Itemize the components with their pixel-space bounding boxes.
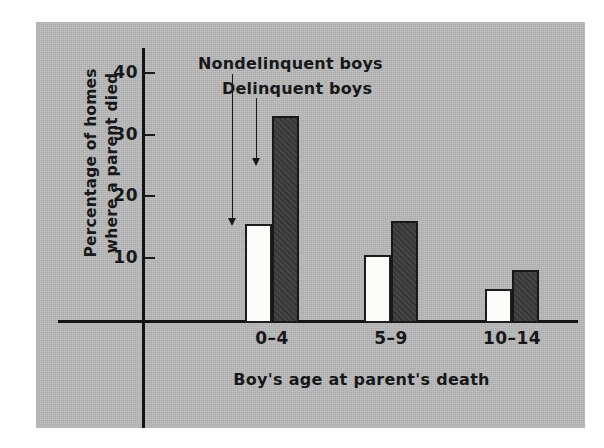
leader-line-delinquent xyxy=(256,98,257,162)
bar-nondelinquent-1 xyxy=(364,255,391,323)
category-label-1: 5–9 xyxy=(341,328,441,348)
arrowhead-nondelinquent-icon xyxy=(228,218,236,226)
bar-chart-figure: 10203040 Percentage of homes where a par… xyxy=(0,0,604,448)
bar-group-10-14 xyxy=(485,48,539,323)
bar-delinquent-0 xyxy=(272,116,299,323)
annotation-nondelinquent-boys: Nondelinquent boys xyxy=(198,54,383,73)
y-axis-title: Percentage of homes where a parent died xyxy=(81,53,123,273)
y-axis-title-line-2: where a parent died xyxy=(102,53,123,273)
bar-nondelinquent-2 xyxy=(485,289,512,323)
category-label-2: 10–14 xyxy=(462,328,562,348)
bar-delinquent-2 xyxy=(512,270,539,323)
leader-line-nondelinquent xyxy=(232,74,233,222)
arrowhead-delinquent-icon xyxy=(252,158,260,166)
chart-plate: 10203040 Percentage of homes where a par… xyxy=(36,22,585,428)
y-axis-title-line-1: Percentage of homes xyxy=(81,53,102,273)
x-axis-title: Boy's age at parent's death xyxy=(145,370,578,389)
bar-delinquent-1 xyxy=(391,221,418,323)
bar-nondelinquent-0 xyxy=(245,224,272,323)
category-label-0: 0–4 xyxy=(222,328,322,348)
annotation-delinquent-boys: Delinquent boys xyxy=(222,79,372,98)
